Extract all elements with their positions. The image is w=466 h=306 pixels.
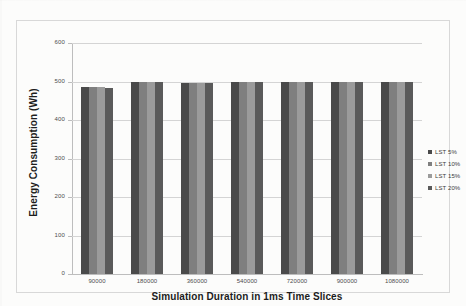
legend-swatch-icon [428, 186, 432, 190]
bar [339, 82, 347, 275]
bar [389, 82, 397, 275]
bar [331, 82, 339, 275]
y-axis-tick [68, 236, 72, 237]
plot-area [72, 43, 422, 274]
bar-group [222, 43, 272, 274]
bar [139, 82, 147, 275]
bar [405, 82, 413, 275]
x-axis-tick-label: 900000 [322, 278, 372, 284]
bar [289, 82, 297, 275]
bar [131, 82, 139, 275]
bar [355, 82, 363, 275]
legend-item[interactable]: LST 20% [428, 185, 460, 191]
legend-item-label: LST 5% [435, 149, 457, 155]
y-axis-tick [68, 159, 72, 160]
bar [239, 82, 247, 274]
y-axis-tick-label: 200 [54, 193, 65, 199]
bar [281, 82, 289, 275]
bar [297, 82, 305, 275]
bar-group [172, 43, 222, 274]
x-axis-tick-label: 720000 [272, 278, 322, 284]
legend-item[interactable]: LST 15% [428, 173, 460, 179]
bar [197, 83, 205, 274]
chart-legend: LST 5%LST 10%LST 15%LST 20% [428, 149, 460, 191]
x-axis-tick-label: 540000 [222, 278, 272, 284]
y-axis-tick-label: 400 [54, 116, 65, 122]
x-axis-tick-label: 360000 [172, 278, 222, 284]
bar-group [122, 43, 172, 274]
x-axis-tick-label: 180000 [122, 278, 172, 284]
y-axis-tick [68, 274, 72, 275]
bar [89, 87, 97, 274]
bar [147, 82, 155, 275]
x-axis-line [72, 274, 423, 275]
bar [155, 82, 163, 275]
x-axis-title: Simulation Duration in 1ms Time Slices [72, 291, 422, 302]
chart-frame: 0100200300400500600 Energy Consumption (… [16, 20, 450, 293]
y-axis-tick-label: 600 [54, 39, 65, 45]
y-axis-tick-label: 100 [54, 232, 65, 238]
bar [347, 82, 355, 275]
y-axis-tick [68, 43, 72, 44]
bar [305, 82, 313, 275]
bar [181, 83, 189, 274]
y-axis-tick [68, 197, 72, 198]
bar [255, 82, 263, 274]
x-axis-tick-label: 90000 [72, 278, 122, 284]
legend-swatch-icon [428, 150, 432, 154]
bar [105, 88, 113, 274]
x-axis-tick-labels: 9000018000036000054000072000090000010800… [72, 278, 422, 284]
x-axis-tick-label: 1080000 [372, 278, 422, 284]
legend-item-label: LST 20% [435, 185, 460, 191]
legend-item-label: LST 10% [435, 161, 460, 167]
legend-item[interactable]: LST 10% [428, 161, 460, 167]
legend-swatch-icon [428, 162, 432, 166]
bar-group [272, 43, 322, 274]
bar [189, 83, 197, 274]
y-axis-tick [68, 82, 72, 83]
bar [247, 82, 255, 274]
y-axis-tick-labels: 0100200300400500600 [17, 21, 65, 306]
y-axis-tick-label: 300 [54, 155, 65, 161]
bar-group [72, 43, 122, 274]
y-axis-tick [68, 120, 72, 121]
bar-group [322, 43, 372, 274]
bar [381, 82, 389, 275]
y-axis-title: Energy Consumption (Wh) [28, 63, 39, 243]
y-axis-tick-label: 0 [61, 270, 65, 276]
bar [397, 82, 405, 275]
y-axis-tick-label: 500 [54, 78, 65, 84]
bar [81, 87, 89, 274]
bar [205, 83, 213, 274]
bar-group [372, 43, 422, 274]
legend-item-label: LST 15% [435, 173, 460, 179]
legend-swatch-icon [428, 174, 432, 178]
bar [97, 87, 105, 274]
bar-groups [72, 43, 422, 274]
bar [231, 82, 239, 274]
legend-item[interactable]: LST 5% [428, 149, 460, 155]
